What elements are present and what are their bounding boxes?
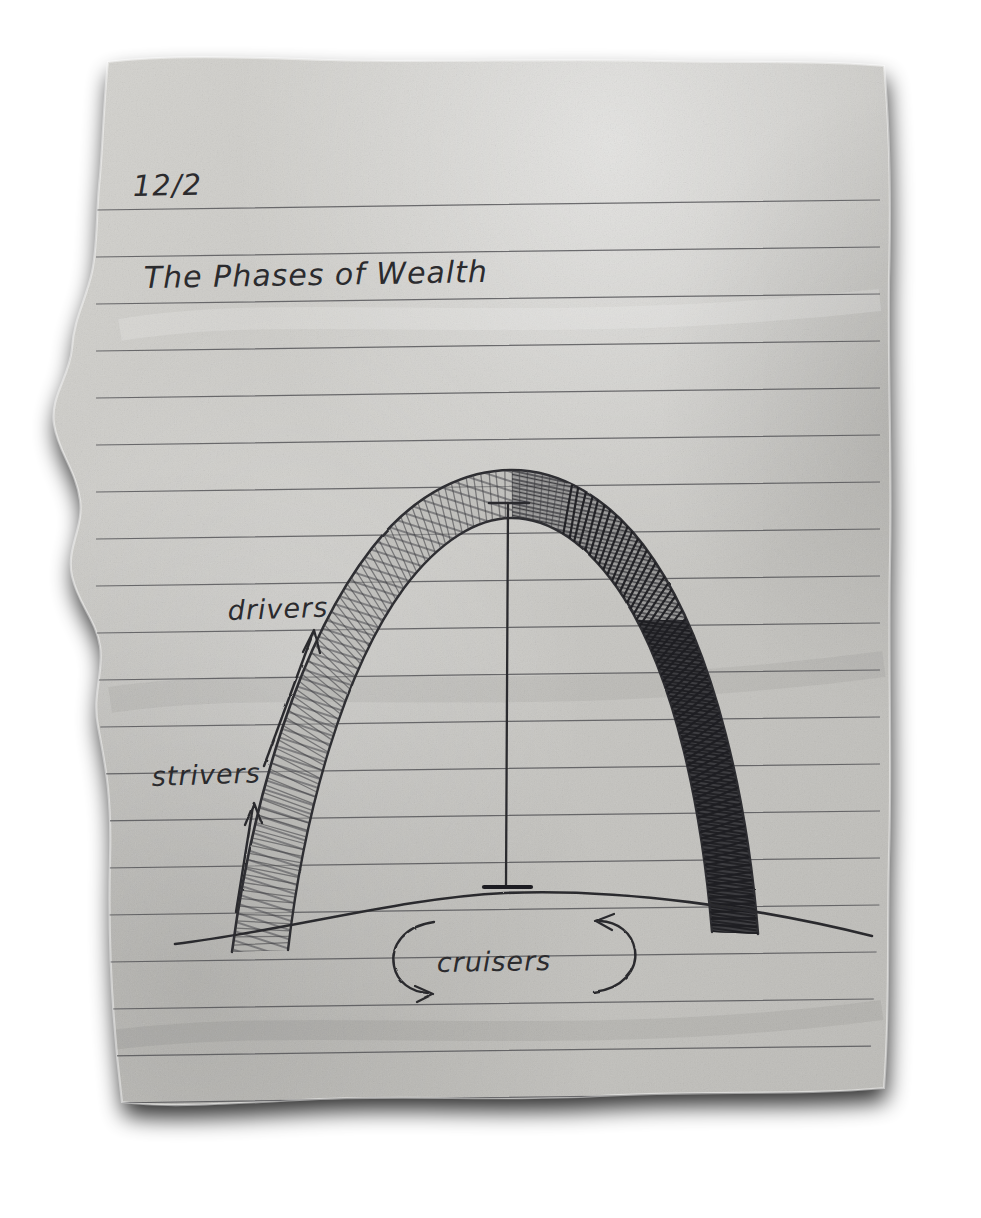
date-text: 12/2 — [132, 168, 202, 203]
label-strivers: strivers — [151, 757, 261, 792]
arch-rung — [505, 470, 506, 518]
label-drivers: drivers — [227, 592, 329, 626]
arch-rung — [710, 918, 757, 919]
notebook-sketch-canvas: 12/2 The Phases of Wealth — [0, 0, 981, 1218]
page-title: The Phases of Wealth — [144, 254, 489, 295]
notebook-page: 12/2 The Phases of Wealth — [0, 0, 981, 1218]
arch-rung — [235, 936, 289, 937]
screenshot-root: 12/2 The Phases of Wealth — [0, 0, 981, 1218]
label-cruisers: cruisers — [437, 945, 552, 978]
